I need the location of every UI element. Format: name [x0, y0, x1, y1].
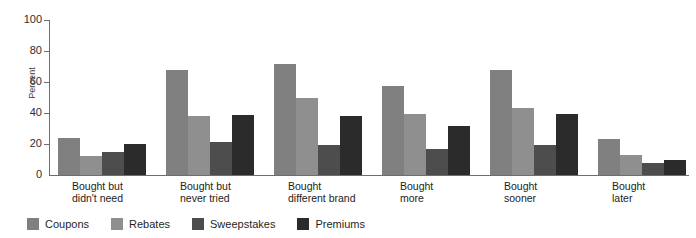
bar — [80, 156, 102, 175]
x-axis-label: Bought but never tried — [180, 181, 231, 204]
x-axis-label: Bought but didn't need — [72, 181, 123, 204]
bar-group — [490, 20, 578, 175]
legend-swatch-icon — [27, 218, 39, 230]
y-axis-tick-label: 20 — [16, 138, 42, 149]
bar — [382, 86, 404, 175]
bar — [340, 116, 362, 175]
bar — [188, 116, 210, 175]
bar — [620, 155, 642, 175]
legend-item[interactable]: Rebates — [111, 218, 170, 230]
x-axis-label: Bought sooner — [504, 181, 537, 204]
y-axis-tick-mark — [44, 51, 49, 52]
y-axis-tick-mark — [44, 144, 49, 145]
bar — [534, 145, 556, 175]
y-axis-tick-mark — [44, 20, 49, 21]
bar-group — [58, 20, 146, 175]
bar-group — [166, 20, 254, 175]
bar — [102, 152, 124, 175]
bar — [404, 114, 426, 175]
x-axis-label: Bought different brand — [288, 181, 356, 204]
y-axis-tick-mark — [44, 113, 49, 114]
legend-label: Rebates — [129, 219, 170, 230]
y-axis-tick-label: 0 — [16, 169, 42, 180]
plot-area — [49, 20, 689, 175]
bar — [232, 115, 254, 175]
bar — [598, 139, 620, 175]
legend-label: Premiums — [315, 219, 365, 230]
bar — [296, 98, 318, 176]
bar — [512, 108, 534, 175]
legend-swatch-icon — [297, 218, 309, 230]
x-axis-line — [49, 175, 689, 176]
legend-label: Sweepstakes — [210, 219, 275, 230]
bar — [124, 144, 146, 175]
y-axis-tick-label: 80 — [16, 45, 42, 56]
y-axis-tick-label: 40 — [16, 107, 42, 118]
bar — [664, 160, 686, 175]
bar-group — [274, 20, 362, 175]
bar — [642, 163, 664, 175]
bar — [490, 70, 512, 175]
legend-label: Coupons — [45, 219, 89, 230]
bar-chart: Percent 020406080100 Bought but didn't n… — [0, 0, 696, 238]
legend-swatch-icon — [192, 218, 204, 230]
bar — [426, 149, 448, 175]
legend-item[interactable]: Sweepstakes — [192, 218, 275, 230]
bar-group — [382, 20, 470, 175]
legend-item[interactable]: Coupons — [27, 218, 89, 230]
legend-item[interactable]: Premiums — [297, 218, 365, 230]
x-axis-label: Bought later — [612, 181, 645, 204]
bar — [166, 70, 188, 175]
bar — [210, 142, 232, 175]
bar — [448, 126, 470, 175]
bar — [318, 145, 340, 175]
y-axis-tick-label: 100 — [16, 14, 42, 25]
legend-swatch-icon — [111, 218, 123, 230]
y-axis-tick-mark — [44, 82, 49, 83]
y-axis-tick-label: 60 — [16, 76, 42, 87]
bar — [556, 114, 578, 175]
bar-group — [598, 20, 686, 175]
bar — [274, 64, 296, 175]
legend: CouponsRebatesSweepstakesPremiums — [27, 218, 387, 230]
bar — [58, 138, 80, 175]
x-axis-label: Bought more — [400, 181, 433, 204]
